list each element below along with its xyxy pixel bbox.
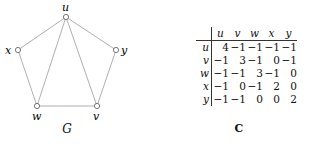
vertex-label-x: x: [5, 44, 12, 57]
matrix-cell: −1: [246, 41, 263, 55]
matrix-row: w −1 −1 3 −1 0: [196, 67, 297, 80]
vertex-w: [34, 103, 39, 108]
matrix-caption: C: [160, 122, 318, 135]
matrix-row: u 4 −1 −1 −1 −1: [196, 41, 297, 55]
matrix-cell: −1: [212, 80, 230, 93]
matrix-row: x −1 0 −1 2 0: [196, 80, 297, 93]
edge-x-w: [18, 50, 37, 106]
matrix-cell: −1: [246, 80, 263, 93]
matrix-col-header: v: [229, 27, 246, 41]
matrix-row-label: v: [196, 54, 212, 67]
matrix-cell: −1: [280, 41, 297, 55]
matrix-row-label: u: [196, 41, 212, 55]
matrix-col-header: x: [263, 27, 280, 41]
matrix-row-label: y: [196, 93, 212, 106]
graph-vertices: uxywv: [5, 1, 128, 123]
matrix-cell: 2: [263, 80, 280, 93]
matrix-row: y −1 −1 0 0 2: [196, 93, 297, 106]
matrix-cell: 0: [263, 93, 280, 106]
matrix-cell: 0: [229, 80, 246, 93]
matrix-cell: 0: [263, 54, 280, 67]
matrix-col-header: y: [280, 27, 297, 41]
vertex-v: [94, 103, 99, 108]
matrix-row: v −1 3 −1 0 −1: [196, 54, 297, 67]
vertex-label-y: y: [120, 44, 128, 57]
vertex-u: [63, 14, 68, 19]
matrix-cell: −1: [263, 41, 280, 55]
vertex-label-u: u: [62, 1, 69, 14]
matrix-col-header: u: [212, 27, 230, 41]
matrix-cell: 2: [280, 93, 297, 106]
matrix-row-label: x: [196, 80, 212, 93]
matrix-cell: 0: [280, 80, 297, 93]
matrix-cell: −1: [229, 41, 246, 55]
matrix-cell: −1: [229, 93, 246, 106]
matrix-cell: 3: [246, 67, 263, 80]
matrix-cell: 0: [246, 93, 263, 106]
matrix-c: u v w x y u 4 −1 −1 −1 −1 v −1 3 −1 0 −1…: [196, 27, 297, 106]
matrix-cell: −1: [212, 54, 230, 67]
graph-edges: [18, 17, 116, 106]
matrix-cell: 0: [280, 67, 297, 80]
matrix-cell: −1: [229, 67, 246, 80]
edge-u-v: [66, 17, 97, 106]
vertex-x: [15, 47, 20, 52]
matrix-row-label: w: [196, 67, 212, 80]
graph-caption: G: [0, 122, 134, 136]
matrix-cell: 4: [212, 41, 230, 55]
matrix-cell: −1: [280, 54, 297, 67]
matrix-corner: [196, 27, 212, 41]
edge-u-x: [18, 17, 66, 50]
edge-u-y: [66, 17, 116, 50]
matrix-cell: −1: [263, 67, 280, 80]
matrix-cell: −1: [212, 93, 230, 106]
edge-u-w: [37, 17, 66, 106]
matrix-cell: −1: [246, 54, 263, 67]
matrix-header-row: u v w x y: [196, 27, 297, 41]
vertex-y: [113, 47, 118, 52]
edge-y-v: [97, 50, 116, 106]
matrix-col-header: w: [246, 27, 263, 41]
matrix-cell: 3: [229, 54, 246, 67]
matrix-cell: −1: [212, 67, 230, 80]
